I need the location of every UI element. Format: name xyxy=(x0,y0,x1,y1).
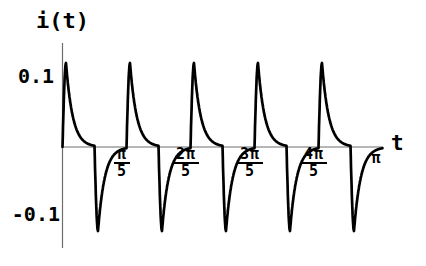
x-tick-denominator: 5 xyxy=(309,164,319,178)
current-plot-figure: i(t) t 0.1 -0.1 π52π53π54π5π xyxy=(0,0,426,266)
y-tick-label-negative: -0.1 xyxy=(10,204,60,224)
x-tick-text: π xyxy=(371,152,381,165)
x-tick-denominator: 5 xyxy=(245,164,255,178)
x-tick-denominator: 5 xyxy=(117,164,127,178)
x-tick-fraction: 4π5 xyxy=(301,148,327,178)
y-tick-label-positive: 0.1 xyxy=(14,66,54,86)
x-axis-title: t xyxy=(391,133,404,154)
x-tick-fraction: 2π5 xyxy=(173,148,199,178)
x-tick-fraction: π5 xyxy=(114,148,130,178)
x-tick-label-pi: π xyxy=(371,152,381,165)
waveform-plot xyxy=(0,0,426,266)
y-axis-title: i(t) xyxy=(36,10,89,32)
x-tick-fraction: 3π5 xyxy=(237,148,263,178)
x-tick-denominator: 5 xyxy=(181,164,191,178)
